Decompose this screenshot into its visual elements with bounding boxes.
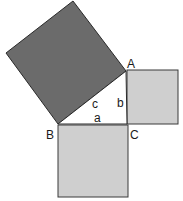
square-on-b [127, 70, 178, 124]
square-on-a [58, 125, 128, 197]
vertex-c-label: C [130, 128, 139, 142]
vertex-a-label: A [127, 57, 135, 71]
side-c-label: c [92, 97, 98, 111]
side-b-label: b [117, 96, 124, 110]
pythagorean-diagram: A B C a b c [0, 0, 183, 201]
side-a-label: a [94, 111, 101, 125]
vertex-b-label: B [46, 128, 54, 142]
